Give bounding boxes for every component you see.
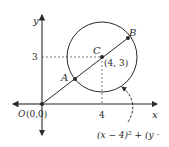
circle-equation: (x − 4)² + (y · xyxy=(97,130,159,140)
y-tick-label: 3 xyxy=(32,52,38,62)
x-axis-label: x xyxy=(152,109,158,120)
point-a xyxy=(73,77,77,81)
diagram-canvas: y x 3 4 O (0,0) A B C (4, 3) (x − 4)² + … xyxy=(0,0,169,147)
origin-name: O xyxy=(18,109,26,119)
point-a-label: A xyxy=(60,72,68,83)
origin-coords: (0,0) xyxy=(26,109,47,119)
point-c-label: C xyxy=(93,45,101,56)
point-o xyxy=(40,102,44,106)
line-ob xyxy=(42,38,128,104)
point-c-coords: (4, 3) xyxy=(104,58,128,68)
point-b-label: B xyxy=(128,27,136,38)
x-tick-label: 4 xyxy=(99,110,105,120)
y-axis-label: y xyxy=(32,15,39,26)
